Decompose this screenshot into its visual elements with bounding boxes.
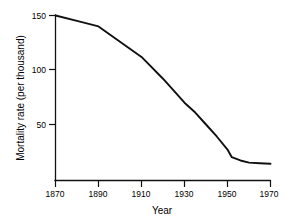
x-tick-label-1870: 1870 xyxy=(46,189,65,199)
mortality-rate-series-line xyxy=(56,16,271,164)
y-tick-label-150: 150 xyxy=(32,11,46,21)
x-tick-label-1890: 1890 xyxy=(89,189,108,199)
y-axis-title: Mortality rate (per thousand) xyxy=(15,35,26,161)
y-tick-label-50: 50 xyxy=(37,120,47,130)
x-axis-title: Year xyxy=(152,205,173,216)
x-tick-label-1930: 1930 xyxy=(175,189,194,199)
x-tick-label-1910: 1910 xyxy=(132,189,151,199)
x-tick-label-1970: 1970 xyxy=(260,189,279,199)
y-tick-label-100: 100 xyxy=(32,65,46,75)
mortality-rate-line-chart: 150 100 50 1870 1890 1910 1930 1950 1970… xyxy=(0,0,284,224)
x-tick-label-1950: 1950 xyxy=(218,189,237,199)
